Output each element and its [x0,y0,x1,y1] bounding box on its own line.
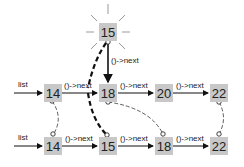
top-list-label: list [18,80,28,89]
bottom-node-15: 15 [99,137,117,155]
linked-list-insertion-diagram: 15 ()->next list 14 18 20 22 ()->next ()… [0,0,244,167]
top-node-14: 14 [44,84,62,102]
top-node-18: 18 [99,84,117,102]
top-node-22: 22 [210,84,228,102]
top-edge-label-2: ()->next [120,81,148,90]
top-edge-label-1: ()->next [64,81,92,90]
new-node-next-label: ()->next [111,56,139,65]
bottom-node-14: 14 [44,137,62,155]
bottom-node-18: 18 [155,137,173,155]
bottom-node-22: 22 [210,137,228,155]
top-node-20: 20 [155,84,173,102]
bottom-edge-label-3: ()->next [176,134,204,143]
top-edge-label-3: ()->next [176,81,204,90]
bottom-list-label: list [18,133,28,142]
bottom-edge-label-2: ()->next [120,134,148,143]
new-node-15: 15 [99,23,117,41]
bottom-edge-label-1: ()->next [65,134,93,143]
